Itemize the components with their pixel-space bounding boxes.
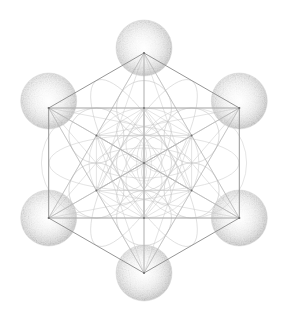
node-outer-lower-left xyxy=(48,217,50,219)
node-inner-bottom xyxy=(143,217,145,219)
metatrons-cube-figure xyxy=(0,0,291,327)
node-center xyxy=(143,162,145,164)
node-inner-lower-right xyxy=(191,190,193,192)
node-outer-upper-left xyxy=(48,107,50,109)
node-inner-upper-right xyxy=(191,135,193,137)
node-inner-upper-left xyxy=(96,135,98,137)
node-inner-lower-left xyxy=(96,190,98,192)
sacred-geometry-svg xyxy=(0,0,291,327)
node-outer-lower-right xyxy=(238,217,240,219)
node-inner-top xyxy=(143,107,145,109)
node-outer-bottom xyxy=(143,272,145,274)
node-outer-top xyxy=(143,52,145,54)
node-outer-upper-right xyxy=(238,107,240,109)
